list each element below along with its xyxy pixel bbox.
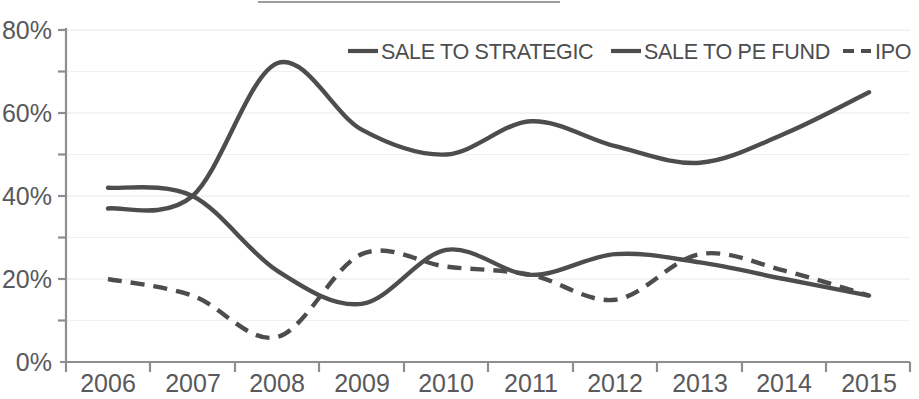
series-group xyxy=(108,62,869,338)
x-axis-label-2012: 2012 xyxy=(587,369,643,397)
series-line-sale-to-strategic xyxy=(108,187,869,304)
x-axis-labels: 2006 2007 2008 2009 2010 2011 2012 2013 … xyxy=(80,369,897,397)
y-axis-labels: 80% 60% 40% 20% 0% xyxy=(2,16,52,376)
y-axis-label-80: 80% xyxy=(2,16,52,44)
x-axis-label-2013: 2013 xyxy=(672,369,728,397)
line-chart: 80% 60% 40% 20% 0% 2006 2007 2008 2009 2… xyxy=(0,0,919,399)
legend-label-sale-to-pe-fund: SALE TO PE FUND xyxy=(644,40,830,64)
chart-container: 80% 60% 40% 20% 0% 2006 2007 2008 2009 2… xyxy=(0,0,919,399)
x-axis-label-2010: 2010 xyxy=(418,369,474,397)
y-axis-label-60: 60% xyxy=(2,99,52,127)
y-axis-label-0: 0% xyxy=(16,348,52,376)
y-axis-label-20: 20% xyxy=(2,265,52,293)
x-axis-label-2006: 2006 xyxy=(80,369,136,397)
legend-label-sale-to-strategic: SALE TO STRATEGIC xyxy=(381,40,593,64)
series-line-sale-to-pe-fund xyxy=(108,62,869,211)
legend-item-ipo[interactable]: IPO xyxy=(843,40,911,64)
legend-item-sale-to-pe-fund[interactable]: SALE TO PE FUND xyxy=(611,40,830,64)
legend-label-ipo: IPO xyxy=(875,40,911,64)
x-axis-label-2011: 2011 xyxy=(504,369,558,397)
x-axis-label-2008: 2008 xyxy=(249,369,305,397)
series-line-ipo xyxy=(108,251,869,338)
x-axis-label-2014: 2014 xyxy=(756,369,812,397)
x-axis-label-2015: 2015 xyxy=(841,369,897,397)
y-axis-ticks xyxy=(58,30,66,321)
x-axis-label-2007: 2007 xyxy=(165,369,221,397)
legend-item-sale-to-strategic[interactable]: SALE TO STRATEGIC xyxy=(348,40,593,64)
y-axis-label-40: 40% xyxy=(2,182,52,210)
x-axis-label-2009: 2009 xyxy=(334,369,390,397)
chart-legend: SALE TO STRATEGIC SALE TO PE FUND IPO xyxy=(348,40,911,64)
